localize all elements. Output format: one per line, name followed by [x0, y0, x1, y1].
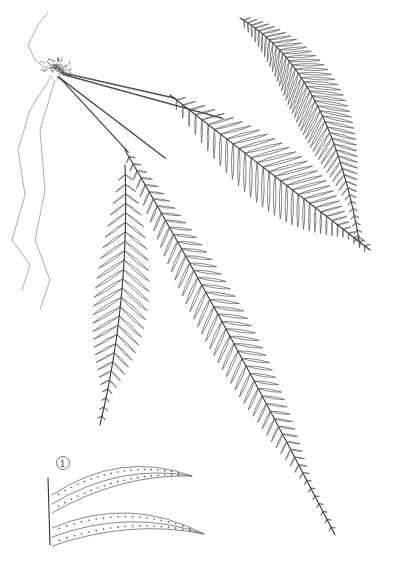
- pinna: [251, 25, 252, 37]
- root: [28, 12, 48, 70]
- sorus: [124, 479, 126, 481]
- pinna: [321, 511, 323, 515]
- pinna: [313, 496, 315, 500]
- pinna: [327, 156, 338, 173]
- pinna: [113, 194, 126, 204]
- sorus: [97, 476, 99, 478]
- sorus: [110, 527, 112, 529]
- sorus: [130, 469, 132, 471]
- pinna: [279, 181, 281, 219]
- pinna: [275, 50, 280, 77]
- pinna: [234, 344, 263, 348]
- pinna: [126, 184, 136, 191]
- pinna: [93, 298, 121, 315]
- pinna: [238, 148, 240, 185]
- left-frond: [93, 165, 149, 425]
- pinna: [291, 449, 303, 451]
- detail-inset: 1: [48, 457, 204, 547]
- pinna: [126, 194, 139, 203]
- pinna: [301, 77, 335, 80]
- sorus: [64, 502, 66, 504]
- stipe-edge: [64, 75, 224, 119]
- pinna: [123, 279, 149, 301]
- pinna: [207, 125, 209, 151]
- pinna: [315, 101, 348, 106]
- sorus: [58, 505, 60, 507]
- pinna: [93, 316, 119, 331]
- pinna: [165, 220, 186, 223]
- pinna: [141, 178, 152, 180]
- sorus: [164, 470, 166, 472]
- pinna: [301, 101, 315, 131]
- sorus: [64, 490, 66, 492]
- pinna: [349, 208, 352, 212]
- pinna: [225, 139, 227, 173]
- pinna: [290, 78, 301, 110]
- pinna: [351, 215, 354, 219]
- pinna: [348, 233, 349, 239]
- rhizome-scale: [48, 59, 51, 62]
- pinna: [294, 86, 307, 118]
- pinna: [324, 150, 336, 168]
- pinna: [296, 91, 309, 122]
- sorus: [157, 475, 159, 477]
- pinna: [127, 157, 129, 163]
- pinna: [278, 426, 295, 429]
- pinna: [96, 353, 114, 363]
- fern-illustration: 1: [0, 0, 418, 572]
- pinna: [343, 227, 351, 229]
- pinna: [175, 256, 186, 280]
- pinna: [244, 20, 245, 27]
- pinna: [250, 158, 253, 197]
- pinna: [364, 246, 365, 252]
- pinna: [297, 194, 299, 227]
- pinna: [143, 192, 149, 206]
- pinna: [255, 28, 256, 42]
- sorus: [77, 495, 79, 497]
- sorus: [59, 540, 61, 542]
- pinna: [171, 249, 181, 272]
- pinna: [222, 321, 252, 325]
- pinna: [164, 234, 173, 255]
- pinna: [137, 171, 147, 173]
- sorus: [117, 526, 119, 528]
- sorus: [95, 518, 97, 520]
- pinna: [201, 120, 203, 143]
- pinna: [268, 172, 271, 212]
- pinna: [262, 167, 265, 207]
- pinna: [325, 519, 327, 523]
- pinna: [244, 381, 254, 403]
- sorus: [103, 528, 105, 530]
- pinna: [206, 292, 235, 296]
- pinna: [303, 106, 317, 135]
- pinna: [116, 184, 126, 192]
- pinna: [315, 201, 339, 208]
- pinna: [254, 381, 278, 385]
- pinna: [120, 307, 144, 329]
- pinna: [195, 115, 197, 135]
- sorus: [175, 523, 177, 525]
- sorus: [124, 470, 126, 472]
- pinna: [198, 278, 226, 282]
- pinna: [93, 288, 122, 306]
- sorus: [171, 471, 173, 473]
- pinna: [342, 168, 357, 174]
- pinna: [255, 24, 268, 28]
- sorus: [125, 526, 127, 528]
- pinna: [94, 279, 123, 297]
- pinna: [169, 227, 191, 230]
- pinna: [233, 134, 267, 143]
- pinna: [291, 190, 293, 225]
- pinna: [226, 329, 255, 333]
- pinna: [176, 100, 177, 110]
- pinna: [186, 278, 198, 304]
- pinna: [346, 181, 357, 185]
- stipe: [58, 76, 128, 152]
- sorus: [77, 483, 79, 485]
- pinna: [285, 449, 290, 460]
- pinna: [246, 366, 272, 370]
- sorus: [58, 493, 60, 495]
- pinna: [182, 270, 193, 296]
- sorus: [117, 516, 119, 518]
- sorus: [161, 519, 163, 521]
